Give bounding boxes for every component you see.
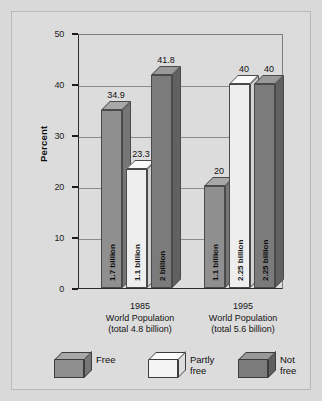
bar-inline-label: 2 billion	[158, 251, 167, 281]
category-subtitle: World Population	[178, 313, 308, 325]
bar-inline-label: 1.1 billion	[211, 244, 220, 281]
bar: 2 billion	[151, 75, 172, 288]
bar-front-face: 2.25 billion	[254, 84, 275, 288]
bar-side-face	[172, 66, 181, 288]
bar-front-face: 2 billion	[151, 75, 172, 288]
free-cube-icon	[54, 352, 84, 372]
y-tick-label: 40	[54, 80, 64, 90]
y-tick-label: 50	[54, 29, 64, 39]
bar: 1.7 billion	[101, 110, 122, 288]
y-tick-label: 10	[54, 233, 64, 243]
not-free-cube-icon	[238, 352, 268, 372]
bar-inline-label: 2.25 billion	[236, 240, 245, 281]
category-caption: 1995World Population(total 5.6 billion)	[178, 301, 308, 336]
y-tick-label: 0	[59, 284, 64, 294]
bar-front-face: 1.1 billion	[126, 169, 147, 288]
bar: 1.1 billion	[126, 169, 147, 288]
chart-legend: FreePartly freeNot free	[30, 346, 294, 386]
bar-inline-label: 1.1 billion	[133, 244, 142, 281]
cube-front-face	[148, 359, 178, 378]
bar-front-face: 1.1 billion	[204, 186, 225, 288]
legend-label: Free	[96, 355, 116, 366]
y-axis-title: Percent	[38, 126, 49, 162]
bar: 1.1 billion	[204, 186, 225, 288]
partly-free-cube-icon	[148, 352, 178, 372]
category-total: (total 5.6 billion)	[178, 324, 308, 336]
legend-label: Partly free	[190, 355, 214, 376]
bar: 2.25 billion	[254, 84, 275, 288]
bar-front-face: 2.25 billion	[229, 84, 250, 288]
bar-inline-label: 1.7 billion	[108, 244, 117, 281]
bar: 2.25 billion	[229, 84, 250, 288]
plot-area: 1.7 billion34.91.1 billion23.32 billion4…	[78, 34, 283, 289]
legend-label: Not free	[280, 355, 296, 376]
cube-front-face	[238, 359, 268, 378]
bar-side-face	[275, 75, 284, 288]
chart-figure: Percent 01020304050 1.7 billion34.91.1 b…	[11, 11, 311, 390]
bar-value-label: 34.9	[96, 90, 136, 100]
bar-value-label: 40	[249, 64, 289, 74]
cube-front-face	[54, 359, 84, 378]
category-year: 1995	[178, 301, 308, 313]
y-tick-label: 20	[54, 182, 64, 192]
bar-value-label: 41.8	[146, 55, 186, 65]
y-tick-label: 30	[54, 131, 64, 141]
bar-inline-label: 2.25 billion	[261, 240, 270, 281]
bar-front-face: 1.7 billion	[101, 110, 122, 288]
